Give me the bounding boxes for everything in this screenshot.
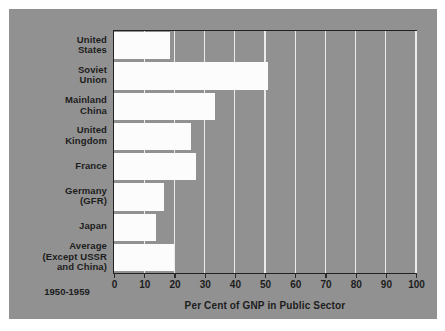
category-label-average-except-ussr-and-china: Average(Except USSRand China) [7,241,107,273]
x-tick-label-10: 10 [130,279,160,290]
x-tick-30 [205,273,206,278]
x-tick-50 [265,273,266,278]
category-label-line: (GFR) [7,196,107,207]
x-tick-80 [356,273,357,278]
category-label-line: China [7,106,107,117]
category-label-line: Kingdom [7,136,107,147]
category-label-united-states: UnitedStates [7,35,107,56]
category-axis: UnitedStatesSovietUnionMainlandChinaUnit… [9,30,113,272]
bar-average-except-ussr-and-china [114,244,174,271]
x-tick-label-70: 70 [311,279,341,290]
category-label-line: France [7,161,107,172]
bar-row [114,214,416,241]
bar-japan [114,214,156,241]
category-label-line: Union [7,75,107,86]
bar-row [114,153,416,180]
x-tick-40 [235,273,236,278]
category-label-mainland-china: MainlandChina [7,95,107,116]
x-tick-0 [114,273,115,278]
category-label-united-kingdom: UnitedKingdom [7,125,107,146]
x-axis-title: Per Cent of GNP in Public Sector [113,300,417,311]
x-tick-90 [386,273,387,278]
x-tick-label-100: 100 [402,279,432,290]
x-tick-label-60: 60 [281,279,311,290]
category-label-line: States [7,45,107,56]
bar-row [114,93,416,120]
bar-row [114,123,416,150]
bar-row [114,183,416,210]
x-tick-label-20: 20 [160,279,190,290]
category-label-line: and China) [7,262,107,273]
chart-card: UnitedStatesSovietUnionMainlandChinaUnit… [9,9,437,319]
plot-area [113,30,417,274]
x-axis: 0102030405060708090100 [113,273,417,303]
x-tick-20 [174,273,175,278]
x-tick-70 [325,273,326,278]
bar-soviet-union [114,62,268,89]
category-label-france: France [7,161,107,172]
bar-row [114,244,416,271]
bar-row [114,62,416,89]
x-tick-label-40: 40 [220,279,250,290]
period-label: 1950-1959 [21,286,113,297]
x-tick-label-90: 90 [371,279,401,290]
x-tick-label-50: 50 [251,279,281,290]
bar-united-kingdom [114,123,191,150]
bar-france [114,153,196,180]
bar-germany-gfr [114,183,164,210]
x-tick-label-30: 30 [190,279,220,290]
category-label-line: Japan [7,221,107,232]
category-label-soviet-union: SovietUnion [7,65,107,86]
x-tick-60 [295,273,296,278]
bar-row [114,32,416,59]
category-label-japan: Japan [7,221,107,232]
x-tick-10 [144,273,145,278]
bar-united-states [114,32,170,59]
category-label-germany-gfr: Germany(GFR) [7,186,107,207]
x-tick-label-80: 80 [341,279,371,290]
bar-series [114,31,416,273]
bar-mainland-china [114,93,215,120]
x-tick-100 [416,273,417,278]
